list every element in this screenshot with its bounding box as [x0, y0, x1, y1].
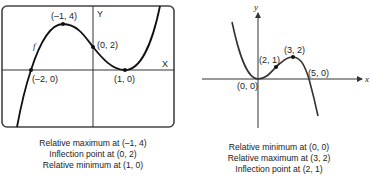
- label-rel-max: (3, 2): [284, 45, 305, 55]
- label-inflection: (0, 2): [97, 40, 118, 50]
- point-rel-max: [291, 55, 295, 59]
- point-rel-min: [123, 68, 127, 72]
- point-x-intercept: [29, 68, 33, 72]
- y-axis-label: y: [253, 2, 258, 12]
- caption-line: Relative minimum at (1, 0): [0, 160, 186, 171]
- left-graph-panel: (–1, 4) (0, 2) (1, 0) (–2, 0) Y X f Rela…: [0, 0, 186, 177]
- label-inflection: (2, 1): [259, 55, 280, 65]
- right-caption: Relative minimum at (0, 0) Relative maxi…: [186, 142, 372, 175]
- caption-line: Relative maximum at (3, 2): [186, 153, 372, 164]
- graph-frame: [2, 6, 174, 127]
- caption-line: Relative maximum at (–1, 4): [0, 138, 186, 149]
- y-axis-label: Y: [97, 9, 103, 19]
- label-rel-max: (–1, 4): [51, 11, 77, 21]
- right-graph-panel: (0, 0) (2, 1) (3, 2) (5, 0) y x Relative…: [186, 0, 372, 177]
- caption-line: Inflection point at (0, 2): [0, 149, 186, 160]
- caption-line: Relative minimum at (0, 0): [186, 142, 372, 153]
- x-axis-label: x: [364, 74, 369, 84]
- left-caption: Relative maximum at (–1, 4) Inflection p…: [0, 138, 186, 171]
- label-rel-min: (0, 0): [237, 81, 258, 91]
- function-curve: [232, 22, 318, 116]
- point-rel-max: [61, 22, 65, 26]
- label-x-intercept: (5, 0): [308, 68, 329, 78]
- label-x-intercept: (–2, 0): [32, 74, 58, 84]
- function-curve: [17, 6, 160, 127]
- point-inflection: [274, 65, 278, 69]
- point-inflection: [91, 45, 95, 49]
- caption-line: Inflection point at (2, 1): [186, 164, 372, 175]
- function-label: f: [33, 41, 37, 51]
- x-axis-label: X: [162, 59, 168, 69]
- label-rel-min: (1, 0): [114, 74, 135, 84]
